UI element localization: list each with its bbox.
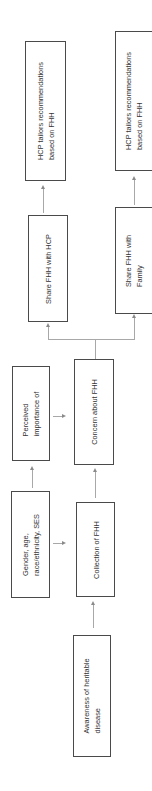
node-label: Share FHH with HCP bbox=[43, 234, 54, 304]
node-label: HCP tailors recommendations based on FHH bbox=[123, 52, 145, 150]
node-label: Concern about FHH bbox=[89, 379, 100, 445]
edge-perceived-to-concern bbox=[53, 416, 62, 417]
node-demographics: Gender, age, race/ethnicity, SES bbox=[11, 491, 50, 598]
arrowhead-icon bbox=[62, 541, 66, 545]
node-label: Share FHH with Family bbox=[123, 234, 145, 286]
arrowhead-icon bbox=[132, 314, 136, 318]
node-hcp-tailors-recommendations-2: HCP tailors recommendations based on FHH bbox=[115, 31, 152, 171]
node-label: Gender, age, race/ethnicity, SES bbox=[20, 514, 42, 576]
edge-share-hcp-to-hcp-tailors bbox=[43, 189, 44, 213]
node-hcp-tailors-recommendations-1: HCP tailors recommendations based on FHH bbox=[25, 41, 66, 181]
node-label: HCP tailors recommendations based on FHH bbox=[35, 62, 57, 160]
node-share-fhh-with-family: Share FHH with Family bbox=[115, 207, 152, 314]
edge-share-family-to-hcp-tailors bbox=[134, 180, 135, 205]
edge-concern-split bbox=[48, 339, 135, 340]
edge-awareness-to-collection bbox=[93, 605, 94, 628]
node-perceived-importance: Perceived importance of bbox=[12, 366, 50, 461]
edge-demographics-to-perceived bbox=[32, 470, 33, 488]
arrowhead-icon bbox=[46, 323, 50, 327]
arrowhead-icon bbox=[41, 185, 45, 189]
edge-collection-to-concern bbox=[95, 472, 96, 498]
edge-concern-to-share-family bbox=[134, 318, 135, 340]
edge-demographics-to-collection bbox=[53, 543, 62, 544]
edge-concern-to-share-hcp bbox=[48, 327, 49, 340]
node-label: Perceived importance of bbox=[20, 391, 42, 436]
arrowhead-icon bbox=[132, 176, 136, 180]
node-share-fhh-with-hcp: Share FHH with HCP bbox=[28, 215, 68, 322]
node-label: Awareness of heritable disease bbox=[81, 658, 103, 733]
edge-concern-trunk bbox=[95, 339, 96, 359]
node-awareness-of-heritable-disease: Awareness of heritable disease bbox=[73, 635, 111, 757]
arrowhead-icon bbox=[62, 414, 66, 418]
node-collection-of-fhh: Collection of FHH bbox=[76, 502, 115, 597]
arrowhead-icon bbox=[91, 601, 95, 605]
arrowhead-icon bbox=[30, 466, 34, 470]
arrowhead-icon bbox=[93, 468, 97, 472]
node-label: Collection of FHH bbox=[90, 521, 101, 579]
node-concern-about-fhh: Concern about FHH bbox=[74, 359, 114, 465]
